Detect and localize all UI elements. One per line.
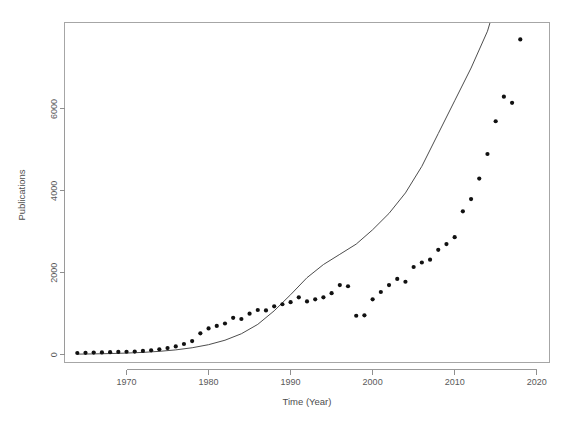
publications-vs-year-scatter-chart: 0200040006000 197019801990200020102020 T… [0, 0, 581, 428]
x-tick-label: 2000 [363, 377, 383, 387]
data-point [346, 284, 350, 288]
data-point [174, 344, 178, 348]
y-tick-group: 0200040006000 [49, 99, 64, 357]
data-point [469, 197, 473, 201]
data-point [494, 119, 498, 123]
data-point [239, 317, 243, 321]
data-point [403, 280, 407, 284]
data-point [272, 304, 276, 308]
data-point [83, 351, 87, 355]
data-point [510, 101, 514, 105]
data-point [247, 312, 251, 316]
data-point [387, 283, 391, 287]
data-point [141, 349, 145, 353]
x-tick-group: 197019801990200020102020 [117, 370, 547, 388]
data-point [124, 350, 128, 354]
x-tick-label: 2020 [527, 377, 547, 387]
x-axis: 197019801990200020102020 [117, 370, 547, 388]
data-point [75, 351, 79, 355]
x-tick-label: 1980 [199, 377, 219, 387]
data-point [182, 342, 186, 346]
data-point [453, 235, 457, 239]
y-axis: 0200040006000 [49, 99, 64, 357]
data-point [215, 324, 219, 328]
data-point [264, 308, 268, 312]
data-point [502, 95, 506, 99]
data-point [305, 299, 309, 303]
data-point [321, 295, 325, 299]
data-point [149, 348, 153, 352]
data-point [412, 265, 416, 269]
x-axis-title: Time (Year) [283, 396, 332, 407]
data-point [190, 339, 194, 343]
data-point [444, 242, 448, 246]
data-point [354, 314, 358, 318]
data-point [395, 277, 399, 281]
data-point [100, 350, 104, 354]
data-point [231, 316, 235, 320]
y-tick-label: 6000 [49, 99, 59, 119]
data-point [428, 258, 432, 262]
data-point [338, 283, 342, 287]
data-point [436, 248, 440, 252]
x-tick-label: 1990 [281, 377, 301, 387]
x-tick-label: 2010 [445, 377, 465, 387]
data-point [206, 326, 210, 330]
y-tick-label: 4000 [49, 181, 59, 201]
data-point [165, 346, 169, 350]
data-point [288, 300, 292, 304]
data-point [330, 291, 334, 295]
y-tick-label: 0 [49, 352, 59, 357]
data-point [477, 176, 481, 180]
data-point [313, 297, 317, 301]
data-point [223, 321, 227, 325]
data-point [256, 308, 260, 312]
data-point [461, 209, 465, 213]
y-tick-label: 2000 [49, 263, 59, 283]
data-point [92, 350, 96, 354]
data-point [133, 349, 137, 353]
chart-figure: 0200040006000 197019801990200020102020 T… [0, 0, 581, 428]
data-point [420, 260, 424, 264]
data-point [371, 297, 375, 301]
data-point [198, 331, 202, 335]
y-axis-title: Publications [16, 169, 27, 220]
data-point [379, 290, 383, 294]
plot-frame [65, 23, 550, 363]
scatter-points-group [75, 37, 522, 355]
data-point [485, 152, 489, 156]
data-point [116, 350, 120, 354]
data-point [297, 295, 301, 299]
data-point [157, 347, 161, 351]
x-tick-label: 1970 [117, 377, 137, 387]
data-point [518, 37, 522, 41]
data-point [362, 313, 366, 317]
data-point [108, 350, 112, 354]
data-point [280, 302, 284, 306]
